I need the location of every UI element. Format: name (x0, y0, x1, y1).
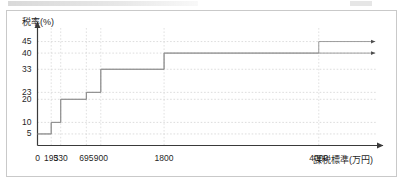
y-tick-label: 40 (12, 49, 32, 58)
step-series-group (38, 42, 376, 134)
step-line-tax-rate-lower (38, 53, 376, 134)
axes (38, 22, 384, 146)
gridlines (38, 28, 378, 146)
x-tick-label: 900 (84, 154, 118, 163)
y-tick-label: 5 (12, 129, 32, 138)
y-tick-label: 33 (12, 65, 32, 74)
y-tick-label: 45 (12, 37, 32, 46)
y-tick-label: 10 (12, 118, 32, 127)
x-tick-label: 4000 (302, 154, 336, 163)
x-tick-label: 1800 (147, 154, 181, 163)
step-line-tax-rate-upper (38, 42, 376, 134)
figure-canvas: 税率(%) 課税標準(万円) 5102023334045 01953306959… (0, 0, 403, 184)
y-axis-label: 税率(%) (22, 18, 54, 27)
y-tick-label: 23 (12, 88, 32, 97)
